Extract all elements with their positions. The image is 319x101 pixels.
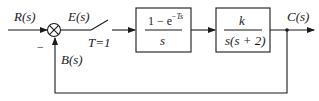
sampler-switch: T=1: [88, 20, 111, 50]
zoh-block: 1 − e −Ts s: [136, 8, 191, 52]
error-label: E(s): [67, 9, 90, 24]
zoh-numerator-exponent: −Ts: [171, 12, 183, 21]
input-label: R(s): [13, 9, 36, 24]
sampler-label: T=1: [88, 35, 111, 50]
output-signal: C(s): [270, 9, 314, 32]
zoh-denominator: s: [160, 33, 165, 48]
feedback-label: B(s): [61, 52, 83, 67]
input-signal: R(s): [8, 9, 47, 30]
plant-numerator: k: [239, 13, 245, 28]
summing-junction: [48, 24, 61, 37]
plant-denominator: s(s + 2): [225, 33, 266, 48]
error-signal: E(s): [61, 9, 92, 30]
plant-block: k s(s + 2): [216, 8, 270, 52]
block-diagram: R(s) − E(s) T=1 1 − e −Ts s k s(s + 2): [0, 0, 319, 101]
output-label: C(s): [287, 9, 309, 24]
zoh-numerator: 1 − e: [148, 14, 172, 28]
feedback-sign: −: [37, 40, 44, 54]
